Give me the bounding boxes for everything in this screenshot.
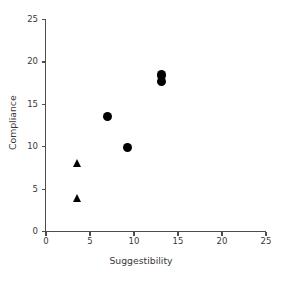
y-tick-label-0: 0 — [16, 227, 38, 236]
y-tick-25 — [42, 19, 46, 20]
y-tick-10 — [42, 146, 46, 147]
x-tick-label-0: 0 — [34, 237, 58, 246]
y-tick-label-10: 10 — [16, 142, 38, 151]
data-point-triangle — [73, 159, 81, 167]
y-tick-5 — [42, 189, 46, 190]
y-tick-label-15: 15 — [16, 100, 38, 109]
x-axis-line — [45, 231, 266, 232]
y-tick-20 — [42, 61, 46, 62]
x-tick-label-20: 20 — [210, 237, 234, 246]
y-tick-label-5: 5 — [16, 185, 38, 194]
x-tick-25 — [265, 232, 266, 236]
y-axis-line — [45, 19, 46, 232]
data-point-circle — [123, 143, 132, 152]
x-axis-title: Suggestibility — [0, 256, 282, 265]
x-tick-label-5: 5 — [78, 237, 102, 246]
data-point-triangle — [73, 194, 81, 202]
data-point-circle — [103, 112, 112, 121]
scatter-plot-figure: 25 20 15 10 5 0 0 5 10 15 20 25 Suggesti… — [0, 0, 282, 281]
x-tick-10 — [133, 232, 134, 236]
x-tick-label-25: 25 — [254, 237, 278, 246]
x-tick-label-10: 10 — [122, 237, 146, 246]
y-tick-15 — [42, 104, 46, 105]
y-tick-label-25: 25 — [16, 15, 38, 24]
x-tick-15 — [177, 232, 178, 236]
x-tick-20 — [221, 232, 222, 236]
y-axis-title: Compliance — [8, 63, 17, 183]
y-tick-label-20: 20 — [16, 57, 38, 66]
x-tick-label-15: 15 — [166, 237, 190, 246]
x-tick-0 — [45, 232, 46, 236]
x-tick-5 — [89, 232, 90, 236]
data-point-circle — [157, 77, 166, 86]
